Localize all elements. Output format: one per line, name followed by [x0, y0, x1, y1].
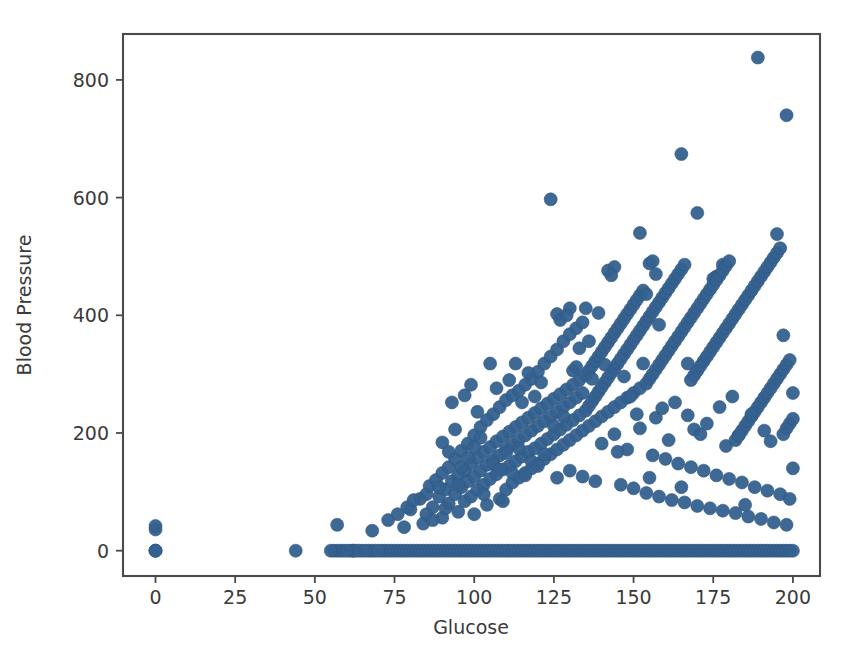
- scatter-point: [643, 471, 656, 484]
- scatter-point: [653, 318, 666, 331]
- scatter-point: [640, 487, 653, 500]
- scatter-point: [442, 445, 455, 458]
- scatter-point: [570, 361, 583, 374]
- scatter-point: [551, 471, 564, 484]
- scatter-point: [668, 396, 681, 409]
- scatter-point: [531, 459, 544, 472]
- scatter-point: [474, 431, 487, 444]
- y-tick-label: 200: [73, 422, 109, 444]
- scatter-point: [289, 544, 302, 557]
- scatter-point: [477, 488, 490, 501]
- scatter-point: [742, 510, 755, 523]
- scatter-point: [452, 478, 465, 491]
- scatter-point: [490, 382, 503, 395]
- scatter-point: [761, 484, 774, 497]
- scatter-point: [471, 405, 484, 418]
- scatter-point: [547, 419, 560, 432]
- scatter-point: [751, 51, 764, 64]
- scatter-point: [516, 396, 529, 409]
- y-axis-label: Blood Pressure: [13, 235, 35, 376]
- scatter-point: [372, 544, 385, 557]
- scatter-point: [605, 269, 618, 282]
- scatter-point: [340, 544, 353, 557]
- scatter-point: [726, 390, 739, 403]
- scatter-point: [506, 467, 519, 480]
- scatter-point: [748, 481, 761, 494]
- scatter-point: [589, 475, 602, 488]
- scatter-point: [719, 439, 732, 452]
- x-tick-label: 175: [695, 586, 731, 608]
- scatter-point: [723, 472, 736, 485]
- scatter-plot-figure: 0255075100125150175200 0200400600800 Glu…: [0, 0, 864, 662]
- scatter-point: [656, 402, 669, 415]
- scatter-point: [493, 463, 506, 476]
- scatter-point: [624, 390, 637, 403]
- x-tick-label: 100: [456, 586, 492, 608]
- scatter-point: [764, 435, 777, 448]
- scatter-point: [691, 206, 704, 219]
- scatter-point: [700, 417, 713, 430]
- x-tick-label: 200: [775, 586, 811, 608]
- scatter-point: [646, 449, 659, 462]
- scatter-point: [484, 357, 497, 370]
- scatter-point: [739, 498, 752, 511]
- scatter-point: [582, 335, 595, 348]
- scatter-point: [398, 521, 411, 534]
- scatter-point: [439, 502, 452, 515]
- scatter-point: [614, 478, 627, 491]
- figure-background: [0, 0, 864, 662]
- scatter-point: [324, 544, 337, 557]
- scatter-point: [755, 512, 768, 525]
- x-axis-label: Glucose: [433, 616, 509, 638]
- scatter-point: [560, 309, 573, 322]
- scatter-point: [598, 358, 611, 371]
- scatter-point: [780, 518, 793, 531]
- scatter-point: [544, 193, 557, 206]
- scatter-point: [780, 109, 793, 122]
- scatter-point: [149, 544, 162, 557]
- scatter-point: [426, 514, 439, 527]
- scatter-point: [576, 316, 589, 329]
- x-tick-label: 0: [149, 586, 161, 608]
- scatter-point: [723, 255, 736, 268]
- scatter-point: [528, 390, 541, 403]
- scatter-point: [704, 502, 717, 515]
- scatter-point: [672, 457, 685, 470]
- scatter-point: [713, 401, 726, 414]
- scatter-point: [630, 408, 643, 421]
- scatter-point: [519, 469, 532, 482]
- scatter-point: [646, 255, 659, 268]
- scatter-point: [331, 518, 344, 531]
- scatter-point: [767, 516, 780, 529]
- scatter-point: [678, 258, 691, 271]
- scatter-point: [659, 452, 672, 465]
- x-tick-label: 150: [615, 586, 651, 608]
- scatter-point: [691, 499, 704, 512]
- scatter-point: [732, 429, 745, 442]
- scatter-point: [678, 496, 691, 509]
- scatter-point: [675, 481, 688, 494]
- scatter-point: [522, 366, 535, 379]
- scatter-point: [697, 464, 710, 477]
- scatter-point: [675, 148, 688, 161]
- scatter-point: [633, 422, 646, 435]
- scatter-point: [149, 519, 162, 532]
- scatter-point: [627, 482, 640, 495]
- scatter-point: [449, 423, 462, 436]
- scatter-point: [637, 357, 650, 370]
- scatter-point: [433, 481, 446, 494]
- scatter-point: [468, 508, 481, 521]
- scatter-point: [783, 492, 796, 505]
- scatter-point: [716, 504, 729, 517]
- scatter-point: [786, 412, 799, 425]
- y-tick-label: 0: [97, 540, 109, 562]
- y-tick-label: 400: [73, 304, 109, 326]
- scatter-point: [684, 461, 697, 474]
- y-tick-label: 600: [73, 187, 109, 209]
- scatter-point: [563, 464, 576, 477]
- scatter-point: [500, 447, 513, 460]
- scatter-point: [633, 226, 646, 239]
- scatter-point: [745, 408, 758, 421]
- scatter-point: [681, 409, 694, 422]
- scatter-point: [786, 386, 799, 399]
